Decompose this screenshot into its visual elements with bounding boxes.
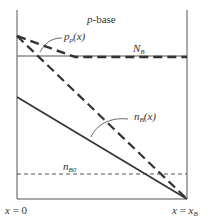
hole-label-leader xyxy=(40,38,62,52)
doping-level-label: NB xyxy=(133,43,145,56)
hole-profile-curve xyxy=(17,36,187,57)
electron-profile-high-injection xyxy=(17,36,187,199)
base-profile-plot xyxy=(0,0,209,223)
hole-profile-label: pp(x) xyxy=(64,31,85,44)
electron-label-leader xyxy=(91,119,128,137)
region-label: p-base xyxy=(87,14,116,25)
equilibrium-electron-label: nB0 xyxy=(63,161,76,174)
x-left-label: x = 0 xyxy=(5,205,27,216)
electron-profile-label: nB(x) xyxy=(134,111,156,124)
x-right-label: x = xB xyxy=(172,205,198,218)
electron-profile-low-injection xyxy=(17,97,187,199)
